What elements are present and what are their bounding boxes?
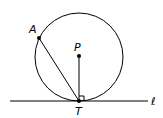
geometry-diagram: A P T ℓ — [0, 0, 163, 118]
point-p — [77, 54, 81, 58]
point-a — [37, 36, 41, 40]
label-a: A — [28, 23, 37, 36]
label-line-l: ℓ — [150, 95, 156, 108]
label-p: P — [74, 41, 81, 54]
label-t: T — [75, 105, 83, 118]
point-t — [77, 99, 81, 103]
chord-at — [39, 38, 79, 101]
